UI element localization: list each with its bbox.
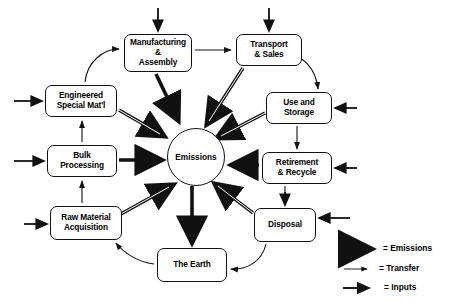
node-bulk-processing-label: Bulk Processing xyxy=(60,151,104,171)
node-raw-material-acquisition-label: Raw Material Acquisition xyxy=(61,213,111,233)
emission-transport-to-emissions xyxy=(207,68,243,124)
emission-use-storage-to-emissions xyxy=(217,113,265,138)
node-retirement-recycle-label: Retirement & Recycle xyxy=(276,158,318,178)
node-emissions-hub[interactable]: Emissions xyxy=(167,128,225,186)
transfer-engineered-to-manufacturing xyxy=(85,49,119,82)
emission-raw-material-to-emissions xyxy=(121,185,173,214)
transfer-disposal-to-earth xyxy=(231,244,266,269)
node-the-earth[interactable]: The Earth xyxy=(157,248,227,282)
node-use-and-storage[interactable]: Use and Storage xyxy=(266,92,332,124)
emission-disposal-to-emissions xyxy=(215,184,253,213)
transfer-transport-to-use xyxy=(300,58,318,89)
node-disposal-label: Disposal xyxy=(268,220,302,230)
node-engineered-special-material-label: Engineered Special Mat'l xyxy=(57,91,106,111)
node-raw-material-acquisition[interactable]: Raw Material Acquisition xyxy=(50,206,122,240)
emission-manufacturing-to-emissions xyxy=(156,74,178,120)
diagram-canvas: Manufacturing & Assembly Transport & Sal… xyxy=(0,0,450,306)
node-emissions-label: Emissions xyxy=(175,152,217,162)
node-transport-sales-label: Transport & Sales xyxy=(250,40,287,60)
node-the-earth-label: The Earth xyxy=(173,260,210,270)
node-retirement-recycle[interactable]: Retirement & Recycle xyxy=(262,152,332,184)
transfer-earth-to-raw-material xyxy=(116,243,154,264)
node-engineered-special-material[interactable]: Engineered Special Mat'l xyxy=(45,85,117,117)
emission-engineered-to-emissions xyxy=(119,110,164,136)
node-disposal[interactable]: Disposal xyxy=(254,208,316,242)
node-transport-sales[interactable]: Transport & Sales xyxy=(236,34,302,66)
node-manufacturing-label: Manufacturing & Assembly xyxy=(130,38,186,67)
node-manufacturing[interactable]: Manufacturing & Assembly xyxy=(124,34,192,72)
node-use-and-storage-label: Use and Storage xyxy=(283,98,315,118)
node-bulk-processing[interactable]: Bulk Processing xyxy=(47,145,117,177)
